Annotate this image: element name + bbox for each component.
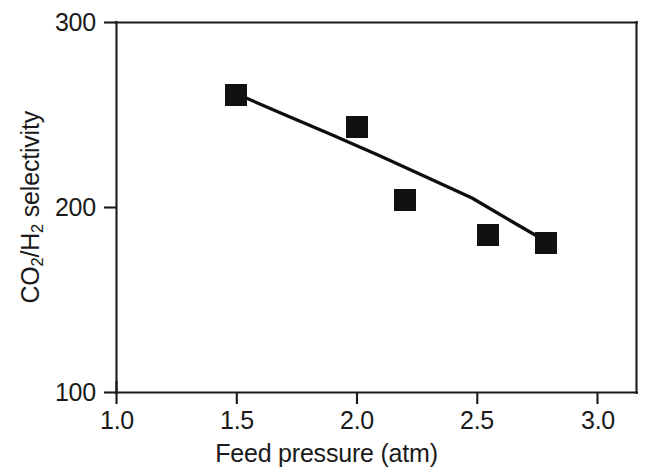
x-tick-label-2-5: 2.5: [460, 406, 494, 435]
data-point-2: [347, 117, 368, 138]
y-axis-label: CO2/H2 selectivity: [16, 111, 47, 304]
y-axis-label-seg3: selectivity: [16, 111, 44, 224]
x-tick-label-1-0: 1.0: [100, 406, 134, 435]
trend-line: [237, 94, 549, 243]
y-axis-ticks: [104, 23, 117, 393]
x-tick-label-2-0: 2.0: [340, 406, 374, 435]
chart-figure: 300 200 100 1.0 1.5 2.0 2.5 3.0 Feed pre…: [0, 0, 653, 475]
x-tick-label-1-5: 1.5: [220, 406, 254, 435]
x-tick-label-3-0: 3.0: [581, 406, 615, 435]
y-axis-label-seg2: /H: [16, 233, 44, 258]
y-axis-label-seg1: CO: [16, 267, 44, 304]
x-axis-label: Feed pressure (atm): [0, 439, 653, 468]
data-point-4: [478, 225, 499, 246]
y-axis-label-sub2: 2: [27, 224, 45, 233]
y-axis-label-sub1: 2: [27, 258, 45, 267]
plot-canvas: [0, 0, 653, 475]
axis-frame: [116, 22, 637, 393]
y-axis-label-container: CO2/H2 selectivity: [14, 0, 48, 415]
data-point-5: [536, 233, 557, 254]
data-point-3: [395, 190, 416, 211]
data-point-1: [226, 85, 247, 106]
